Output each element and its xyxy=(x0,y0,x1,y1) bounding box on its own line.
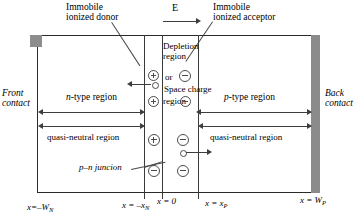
axis-label-WP: x = WP xyxy=(300,196,326,206)
ionized-acceptor-charge xyxy=(180,96,191,107)
axis-minus-WN-subscript: N xyxy=(49,206,53,213)
electric-field-label: E xyxy=(172,3,178,14)
axis-label-zero: x = 0 xyxy=(157,197,176,207)
hole-drift-arrowhead-icon xyxy=(207,149,212,155)
acceptor-label-line1: Immobile xyxy=(213,2,276,12)
pn-junction-label: p–n juncion xyxy=(79,163,122,173)
depletion-region-label: Depletion region xyxy=(163,42,199,61)
ionized-donor-charge xyxy=(148,70,159,81)
qnr-right-arrowhead-icon xyxy=(307,123,312,129)
front-contact-line1: Front xyxy=(2,88,30,98)
quasi-neutral-right-dimension-line xyxy=(200,126,311,127)
axis-WP-subscript: P xyxy=(322,199,326,206)
n-type-region-text: -type region xyxy=(71,92,117,102)
quasi-neutral-left-dimension-line xyxy=(40,126,144,127)
axis-minus-xN-subscript: N xyxy=(145,204,149,211)
axis-WP-text: x = W xyxy=(300,195,322,205)
quasi-neutral-right-label: quasi-neutral region xyxy=(210,133,282,143)
p-width-left-arrowhead-icon xyxy=(196,109,201,115)
acceptor-label-line2: ionized acceptor xyxy=(213,12,276,22)
axis-xP-subscript: P xyxy=(224,202,228,209)
back-contact-bar xyxy=(311,35,320,193)
ionized-donor-charge xyxy=(148,96,159,107)
ionized-acceptor-charge xyxy=(177,165,189,177)
donor-label-line2: ionized donor xyxy=(66,12,119,22)
front-contact-pad xyxy=(30,35,42,47)
space-charge-label: Space charge xyxy=(164,85,212,95)
qnl-left-arrowhead-icon xyxy=(38,123,43,129)
front-contact-label: Front contact xyxy=(2,88,30,109)
immobile-ionized-acceptor-label: Immobile ionized acceptor xyxy=(213,2,276,23)
electron-drift-arrow-line xyxy=(129,84,151,85)
electric-field-arrowhead-icon xyxy=(196,18,201,24)
p-width-right-arrowhead-icon xyxy=(307,109,312,115)
mobile-electron-charge xyxy=(148,165,160,177)
axis-label-minus-WN: x=–WN xyxy=(27,203,53,213)
n-type-region-label: n-type region xyxy=(66,92,117,102)
back-contact-line1: Back xyxy=(325,88,353,98)
ionized-donor-charge xyxy=(148,134,160,146)
quasi-neutral-left-label: quasi-neutral region xyxy=(47,133,119,143)
p-type-width-dimension-line xyxy=(198,112,311,113)
depletion-line-2: region xyxy=(163,52,199,62)
axis-tick-xP xyxy=(198,193,199,199)
front-contact-line2: contact xyxy=(2,98,30,108)
ionized-acceptor-charge xyxy=(179,70,191,82)
electric-field-arrow-line xyxy=(163,21,197,22)
depletion-or-label: or xyxy=(165,73,173,83)
electron-drift-arrowhead-icon xyxy=(127,81,132,87)
axis-minus-xN-text: x = –x xyxy=(122,200,145,210)
axis-tick-minus-xN xyxy=(144,193,145,199)
axis-xP-text: x = x xyxy=(205,198,224,208)
p-type-region-text: -type region xyxy=(229,92,275,102)
back-contact-line2: contact xyxy=(325,98,353,108)
mobile-carrier-dot xyxy=(152,82,159,89)
axis-label-xP: x = xP xyxy=(205,199,228,209)
immobile-ionized-donor-label: Immobile ionized donor xyxy=(66,2,119,23)
n-width-left-arrowhead-icon xyxy=(38,109,43,115)
hole-drift-arrow-line xyxy=(186,152,208,153)
ionized-acceptor-charge xyxy=(177,134,189,146)
qnl-right-arrowhead-icon xyxy=(140,123,145,129)
axis-label-minus-xN: x = –xN xyxy=(122,201,149,211)
p-type-region-label: p-type region xyxy=(224,92,275,102)
qnr-left-arrowhead-icon xyxy=(198,123,203,129)
donor-label-line1: Immobile xyxy=(66,2,119,12)
figure-canvas: Immobile ionized donor Immobile ionized … xyxy=(0,0,357,222)
back-contact-label: Back contact xyxy=(325,88,353,109)
axis-minus-WN-text: x=–W xyxy=(27,202,49,212)
n-width-right-arrowhead-icon xyxy=(140,109,145,115)
n-type-width-dimension-line xyxy=(40,112,144,113)
